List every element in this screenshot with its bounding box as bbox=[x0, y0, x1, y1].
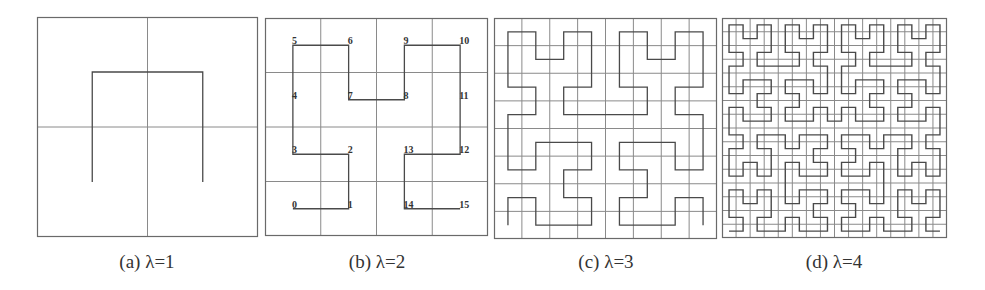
cell-index-label: 12 bbox=[459, 144, 469, 155]
grid-lines bbox=[37, 17, 258, 237]
caption-c: (c) λ=3 bbox=[546, 251, 666, 273]
cell-index-label: 15 bbox=[459, 199, 469, 210]
cell-index-label: 2 bbox=[348, 144, 353, 155]
panel-d-svg bbox=[722, 18, 947, 238]
grid-lines bbox=[265, 18, 488, 236]
cell-index-label: 11 bbox=[459, 90, 468, 101]
caption-a: (a) λ=1 bbox=[87, 251, 207, 273]
cell-index-label: 13 bbox=[403, 144, 413, 155]
cell-index-label: 1 bbox=[348, 199, 353, 210]
panel-d bbox=[722, 18, 947, 238]
panel-a-svg bbox=[37, 17, 258, 237]
cell-index-label: 5 bbox=[292, 35, 297, 46]
cell-index-label: 7 bbox=[348, 90, 353, 101]
panel-c-svg bbox=[494, 18, 717, 239]
cell-index-label: 10 bbox=[459, 35, 469, 46]
cell-index-label: 6 bbox=[348, 35, 353, 46]
grid-lines bbox=[722, 18, 947, 238]
cell-index-label: 3 bbox=[292, 144, 297, 155]
cell-index-label: 14 bbox=[403, 199, 413, 210]
cell-index-label: 8 bbox=[403, 90, 408, 101]
cell-index-labels: 0123456789101112131415 bbox=[292, 35, 469, 210]
grid-lines bbox=[494, 18, 717, 239]
panel-a bbox=[37, 17, 258, 237]
caption-d: (d) λ=4 bbox=[774, 251, 894, 273]
panel-b-svg: 0123456789101112131415 bbox=[265, 18, 488, 236]
panel-c bbox=[494, 18, 717, 239]
cell-index-label: 0 bbox=[292, 199, 297, 210]
cell-index-label: 9 bbox=[403, 35, 408, 46]
cell-index-label: 4 bbox=[292, 90, 297, 101]
caption-b: (b) λ=2 bbox=[317, 251, 437, 273]
panel-b: 0123456789101112131415 bbox=[265, 18, 488, 236]
